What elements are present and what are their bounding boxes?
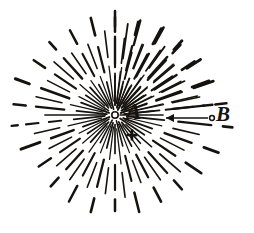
ray-segment [223,126,232,127]
ray-segment [39,158,51,166]
direction-arrow-group [166,114,209,122]
ray-segment [34,60,45,68]
ray-segment [26,123,38,124]
ray-segment [125,156,131,181]
ray-segment [126,46,132,70]
radiating-rays-group [12,11,233,212]
ray-segment [204,147,218,152]
ray-segment [36,107,64,110]
center-circle [112,112,118,118]
ray-segment [186,163,202,173]
ray-segment [91,198,94,212]
ray-segment [15,79,29,84]
ray-segment [12,125,18,126]
ray-segment [64,58,82,78]
ray-segment [35,128,60,134]
ray-segment [166,107,193,110]
label-b: B [216,104,230,125]
ray-segment [173,128,199,134]
ray-segment [132,160,140,182]
outer-circle [210,116,215,121]
ray-segment [174,180,182,189]
center-marker-group [111,111,120,120]
arrow-head [166,114,174,122]
radiating-lines-figure: A B [0,0,254,233]
ray-segment [105,168,108,194]
ray-segment [97,160,104,187]
ray-segment [148,57,167,78]
ray-segment [122,173,125,197]
ray-segment [203,105,213,106]
ray-segment [14,104,26,105]
ray-segment [91,18,95,35]
ray-segment [148,152,167,173]
ray-segment [98,47,104,72]
ray-segment [165,133,192,143]
ray-segment [178,122,211,125]
label-a: A [126,100,141,123]
outer-marker-group [208,114,216,122]
ray-segment [49,121,61,122]
ray-segment [66,151,83,170]
ray-segment [51,178,59,187]
ray-segment [134,193,139,212]
ray-segment [21,142,40,149]
ray-segment [69,186,77,202]
ray-segment [36,97,62,103]
ray-segment [49,42,56,49]
ray-segment [105,31,108,57]
ray-segment [70,30,77,44]
ray-segment [154,188,161,202]
ray-segment [153,141,175,156]
